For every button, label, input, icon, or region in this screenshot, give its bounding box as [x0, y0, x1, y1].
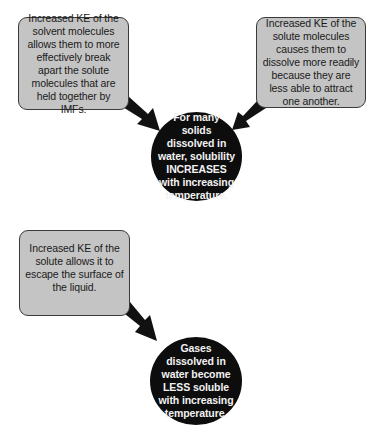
gas-ke-text: Increased KE of the solute allows it to …: [25, 242, 124, 294]
gases-conclusion-text: Gases dissolved in water become LESS sol…: [156, 342, 236, 420]
gases-conclusion-circle: Gases dissolved in water become LESS sol…: [150, 337, 242, 425]
solvent-ke-explanation-box: Increased KE of the solvent molecules al…: [18, 17, 129, 110]
solute-ke-text: Increased KE of the solute molecules cau…: [262, 17, 360, 108]
solvent-ke-text: Increased KE of the solvent molecules al…: [24, 12, 123, 116]
solute-ke-explanation-box: Increased KE of the solute molecules cau…: [256, 17, 366, 108]
gas-ke-explanation-box: Increased KE of the solute allows it to …: [19, 230, 130, 316]
solids-conclusion-text: For many solids dissolved in water, solu…: [157, 111, 236, 202]
solids-conclusion-circle: For many solids dissolved in water, solu…: [151, 112, 242, 201]
